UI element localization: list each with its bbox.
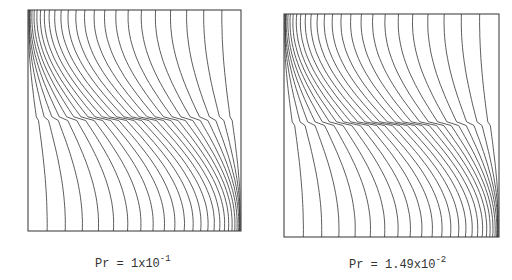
isotherm-line <box>285 14 303 237</box>
isotherm-line <box>413 14 496 237</box>
caption-right-exponent: -2 <box>435 255 446 265</box>
caption-left: Pr = 1x10-1 <box>95 255 171 271</box>
contour-lines-right <box>0 0 512 280</box>
caption-right-text: Pr = 1.49x10 <box>349 258 435 272</box>
isotherm-line <box>300 14 422 237</box>
caption-right: Pr = 1.49x10-2 <box>349 256 446 272</box>
caption-left-exponent: -1 <box>160 254 171 264</box>
caption-left-text: Pr = 1x10 <box>95 257 160 271</box>
